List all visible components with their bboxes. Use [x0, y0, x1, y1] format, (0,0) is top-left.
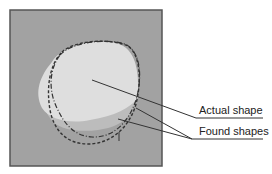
label-found-shapes: Found shapes — [199, 125, 269, 137]
shape-diagram — [0, 0, 272, 174]
label-actual-shape: Actual shape — [199, 104, 263, 116]
